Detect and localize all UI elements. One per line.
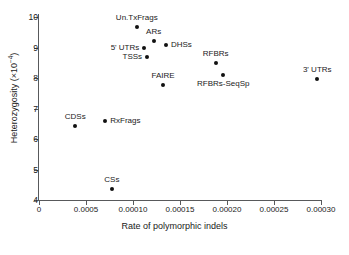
x-axis-tick-label: 0.0005 [74, 206, 98, 214]
data-point [161, 83, 165, 87]
y-axis-tick-label: 10 [29, 13, 38, 22]
x-axis-tick-label: 0.00020 [213, 206, 242, 214]
x-axis-title: Rate of polymorphic indels [0, 221, 349, 231]
x-axis-tick-label: 0.00010 [119, 206, 148, 214]
data-point-label: RFBRs-SeqSp [197, 80, 249, 88]
scatter-plot-figure: 45678910 00.00050.000100.000150.000200.0… [0, 0, 349, 255]
data-point [145, 55, 149, 59]
y-axis-tick-label: 6 [33, 135, 38, 144]
y-axis-tick-label: 7 [33, 105, 38, 114]
y-axis-tick-label: 8 [33, 74, 38, 83]
caption-strip [0, 239, 349, 255]
x-axis-tick-label: 0.00025 [260, 206, 289, 214]
data-point-label: CDSs [65, 113, 86, 121]
data-point [142, 46, 146, 50]
data-point-label: TSSs [123, 53, 143, 61]
x-axis-tick-label: 0.00015 [166, 206, 195, 214]
y-axis-title: Heterozygosity (×10−4) [7, 33, 19, 163]
data-point-label: FAIRE [152, 72, 175, 80]
data-point-label: ARs [146, 28, 161, 36]
y-axis-title-exponent: −4 [7, 56, 14, 63]
plot-area [39, 10, 321, 200]
data-point [135, 25, 139, 29]
data-point [164, 43, 168, 47]
y-axis-tick-label: 4 [33, 196, 38, 205]
data-point-label: DHSs [171, 41, 192, 49]
data-point-label: RxFrags [110, 117, 140, 125]
y-axis-tick-label: 5 [33, 166, 38, 175]
x-axis-tick-label: 0 [37, 206, 41, 214]
x-axis-tick-label: 0.00030 [307, 206, 336, 214]
data-point-label: Un.TxFrags [116, 14, 158, 22]
data-point-label: 3' UTRs [303, 66, 332, 74]
data-point-label: 5' UTRs [111, 44, 140, 52]
y-axis-tick-label: 9 [33, 44, 38, 53]
data-point-label: RFBRs [203, 50, 229, 58]
data-point-label: CSs [104, 176, 119, 184]
y-axis-line [38, 14, 39, 201]
